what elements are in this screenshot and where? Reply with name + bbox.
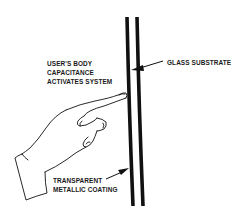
user-body-label: USER'S BODY CAPACITANCE ACTIVATES SYSTEM	[47, 59, 112, 86]
user-body-label-line-3: ACTIVATES SYSTEM	[47, 77, 112, 86]
diagram-svg	[0, 0, 245, 216]
diagram-canvas: USER'S BODY CAPACITANCE ACTIVATES SYSTEM…	[0, 0, 245, 216]
metallic-coating-label-line-1: TRANSPARENT	[53, 176, 118, 185]
metallic-coating-layer	[127, 17, 133, 206]
metallic-coating-label: TRANSPARENT METALLIC COATING	[53, 176, 118, 194]
metallic-coating-label-line-2: METALLIC COATING	[53, 185, 118, 194]
user-body-label-line-2: CAPACITANCE	[47, 68, 112, 77]
glass-substrate-layer	[137, 17, 143, 206]
arrow-glass-icon	[131, 61, 163, 71]
glass-substrate-label: GLASS SUBSTRATE	[167, 58, 231, 67]
user-body-label-line-1: USER'S BODY	[47, 59, 112, 68]
